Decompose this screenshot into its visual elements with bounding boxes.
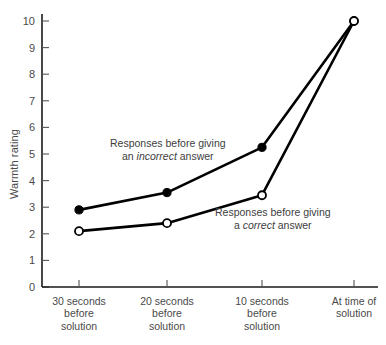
x-axis-category-label: 10 secondsbeforesolution (212, 295, 312, 332)
warmth-rating-line-chart: 012345678910 Warmth rating 30 secondsbef… (0, 0, 386, 345)
annotation-incorrect-emphasis: incorrect (137, 150, 177, 162)
annotation-correct-line1: Responses before giving (215, 206, 331, 219)
x-axis-category-line: solution (117, 320, 217, 332)
annotation-correct-line2: a correct answer (215, 219, 331, 232)
annotation-incorrect-pre: an (122, 150, 137, 162)
x-axis (42, 280, 378, 287)
annotation-incorrect-line2: an incorrect answer (110, 150, 226, 163)
series-line-incorrect (79, 21, 354, 210)
plot-area: 012345678910 (0, 0, 386, 345)
x-axis-category-label: 30 secondsbeforesolution (29, 295, 129, 332)
x-axis-category-line: solution (29, 320, 129, 332)
annotation-incorrect-line1: Responses before giving (110, 137, 226, 150)
y-tick-label: 8 (29, 68, 35, 80)
data-point-marker (75, 206, 83, 214)
x-axis-category-label: At time ofsolution (304, 295, 386, 320)
data-point-marker (350, 17, 358, 25)
annotation-incorrect-post: answer (177, 150, 214, 162)
y-tick-label: 0 (29, 281, 35, 293)
x-axis-category-line: 20 seconds (117, 295, 217, 307)
data-point-marker (258, 143, 266, 151)
y-tick-label: 4 (29, 175, 35, 187)
annotation-correct-pre: a (234, 219, 243, 231)
y-tick-label: 5 (29, 148, 35, 160)
annotation-incorrect-series: Responses before giving an incorrect ans… (110, 137, 226, 163)
y-axis: 012345678910 (23, 14, 49, 293)
data-point-marker (163, 188, 171, 196)
y-tick-label: 3 (29, 201, 35, 213)
x-axis-category-line: before (212, 307, 312, 319)
series-line-correct (79, 21, 354, 231)
data-point-marker (258, 191, 266, 199)
annotation-correct-post: answer (275, 219, 312, 231)
x-axis-category-label: 20 secondsbeforesolution (117, 295, 217, 332)
x-axis-category-line: 30 seconds (29, 295, 129, 307)
y-tick-label: 10 (23, 15, 35, 27)
y-tick-label: 6 (29, 121, 35, 133)
y-tick-label: 7 (29, 95, 35, 107)
x-axis-category-line: 10 seconds (212, 295, 312, 307)
x-axis-category-line: solution (304, 307, 386, 319)
y-tick-label: 1 (29, 254, 35, 266)
y-tick-label: 9 (29, 42, 35, 54)
y-axis-title: Warmth rating (8, 119, 20, 209)
x-axis-category-line: before (29, 307, 129, 319)
data-point-marker (163, 219, 171, 227)
y-tick-label: 2 (29, 228, 35, 240)
annotation-correct-series: Responses before giving a correct answer (215, 206, 331, 232)
x-axis-category-line: before (117, 307, 217, 319)
x-axis-category-line: At time of (304, 295, 386, 307)
annotation-correct-emphasis: correct (243, 219, 275, 231)
x-axis-category-line: solution (212, 320, 312, 332)
data-series (75, 17, 358, 235)
data-point-marker (75, 227, 83, 235)
